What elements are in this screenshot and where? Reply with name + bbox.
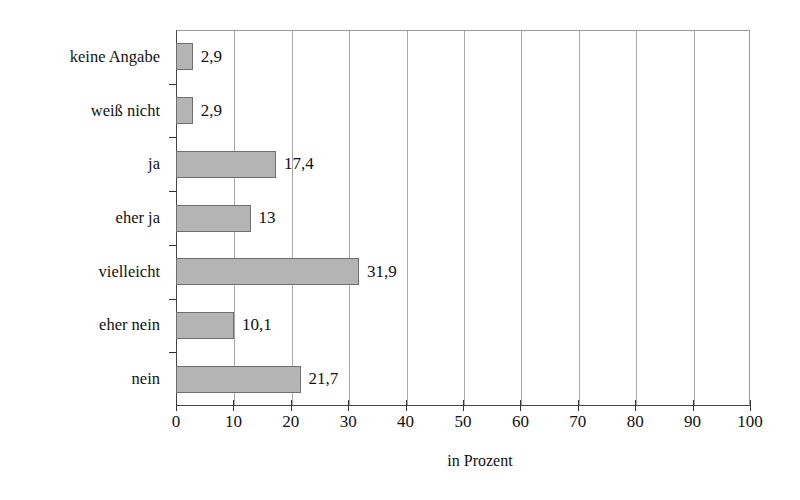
bar-value-label: 17,4	[284, 154, 314, 174]
category-label: eher nein	[0, 315, 160, 335]
x-axis-tick	[348, 400, 349, 411]
x-axis-tick-label: 60	[490, 411, 550, 433]
bar-chart: 01020304050607080901002,9keine Angabe2,9…	[0, 0, 800, 500]
x-axis-tick-label: 50	[433, 411, 493, 433]
gridline	[407, 31, 408, 405]
x-axis-tick-label: 30	[318, 411, 378, 433]
category-label: ja	[0, 154, 160, 174]
category-label: weiß nicht	[0, 101, 160, 121]
x-axis-tick-label: 80	[605, 411, 665, 433]
bar	[176, 258, 359, 285]
gridline	[694, 31, 695, 405]
x-axis-tick	[233, 400, 234, 411]
x-axis-tick-label: 100	[720, 411, 780, 433]
category-label: keine Angabe	[0, 47, 160, 67]
bar	[176, 366, 301, 393]
gridline	[464, 31, 465, 405]
y-axis-tick	[169, 84, 177, 85]
x-axis-tick-label: 20	[261, 411, 321, 433]
y-axis-tick	[169, 191, 177, 192]
bar	[176, 205, 251, 232]
y-axis-tick	[169, 245, 177, 246]
y-axis-tick	[169, 352, 177, 353]
x-axis-tick-label: 90	[663, 411, 723, 433]
x-axis-tick	[693, 400, 694, 411]
y-axis-tick	[169, 299, 177, 300]
gridline	[579, 31, 580, 405]
bar	[176, 43, 193, 70]
category-label: eher ja	[0, 208, 160, 228]
bar-value-label: 2,9	[201, 47, 222, 67]
x-axis-tick	[291, 400, 292, 411]
bar	[176, 312, 234, 339]
gridline	[521, 31, 522, 405]
x-axis-tick	[578, 400, 579, 411]
x-axis-tick-label: 0	[146, 411, 206, 433]
x-axis-tick	[463, 400, 464, 411]
x-axis-tick-label: 40	[376, 411, 436, 433]
category-label: nein	[0, 369, 160, 389]
bar-value-label: 10,1	[242, 315, 272, 335]
category-label: vielleicht	[0, 262, 160, 282]
x-axis-tick	[520, 400, 521, 411]
bar	[176, 151, 276, 178]
x-axis-tick	[406, 400, 407, 411]
x-axis-tick-label: 70	[548, 411, 608, 433]
x-axis-tick	[635, 400, 636, 411]
gridline	[349, 31, 350, 405]
x-axis-tick-label: 10	[203, 411, 263, 433]
x-axis-tick	[750, 400, 751, 411]
bar-value-label: 21,7	[309, 369, 339, 389]
bar	[176, 97, 193, 124]
y-axis-tick	[169, 137, 177, 138]
bar-value-label: 2,9	[201, 101, 222, 121]
gridline	[292, 31, 293, 405]
bar-value-label: 31,9	[367, 262, 397, 282]
x-axis-tick	[176, 400, 177, 411]
x-axis-title: in Prozent	[380, 452, 580, 470]
gridline	[636, 31, 637, 405]
bar-value-label: 13	[259, 208, 276, 228]
